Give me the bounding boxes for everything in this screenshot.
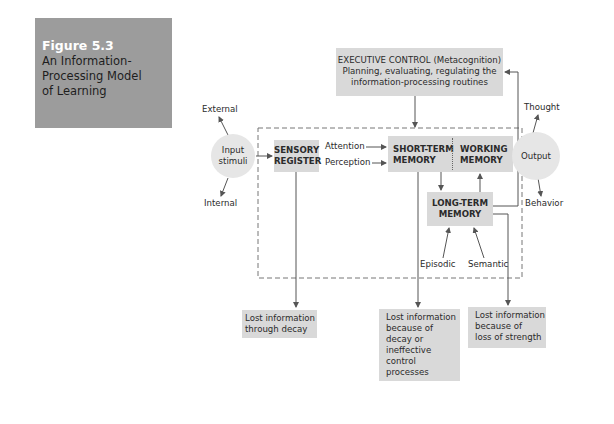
sensory-register-box: SENSORY REGISTER <box>274 140 319 172</box>
wm-label: MEMORY <box>460 155 508 166</box>
short-term-working-memory-box: SHORT-TERM MEMORY WORKING MEMORY <box>388 136 513 172</box>
loss-text: Lost information <box>475 310 546 321</box>
output-node: Output <box>512 132 560 180</box>
semantic-label: Semantic <box>468 259 508 270</box>
loss-text: decay or <box>386 334 460 345</box>
sensory-register-label: SENSORY <box>274 145 319 156</box>
loss-text: control <box>386 356 460 367</box>
output-label: Output <box>521 151 551 162</box>
loss-text: Lost information <box>245 313 317 324</box>
behavior-label: Behavior <box>525 198 563 209</box>
short-term-memory: SHORT-TERM MEMORY <box>393 144 454 166</box>
input-stimuli-node: Input stimuli <box>211 134 255 178</box>
loss-text: Lost information <box>386 312 460 323</box>
diagram-connectors <box>0 0 614 424</box>
episodic-label: Episodic <box>420 259 456 270</box>
loss-box-decay: Lost information through decay <box>242 310 317 338</box>
ltm-label: LONG-TERM <box>427 198 493 209</box>
input-label: Input <box>219 145 248 156</box>
working-memory: WORKING MEMORY <box>460 144 508 166</box>
long-term-memory-box: LONG-TERM MEMORY <box>427 192 493 226</box>
ltm-label: MEMORY <box>427 209 493 220</box>
sensory-register-label: REGISTER <box>274 156 319 167</box>
stm-label: MEMORY <box>393 155 454 166</box>
loss-box-ineffective-control: Lost information because of decay or ine… <box>379 309 460 381</box>
wm-label: WORKING <box>460 144 508 155</box>
external-label: External <box>202 104 238 115</box>
executive-control-desc: information-processing routines <box>336 77 503 88</box>
loss-text: through decay <box>245 324 317 335</box>
loss-text: loss of strength <box>475 332 546 343</box>
loss-text: ineffective <box>386 345 460 356</box>
loss-text: because of <box>475 321 546 332</box>
executive-control-title: EXECUTIVE CONTROL (Metacognition) <box>336 55 503 66</box>
stm-label: SHORT-TERM <box>393 144 454 155</box>
loss-box-strength: Lost information because of loss of stre… <box>468 307 546 348</box>
loss-text: because of <box>386 323 460 334</box>
executive-control-box: EXECUTIVE CONTROL (Metacognition) Planni… <box>336 48 503 96</box>
input-label: stimuli <box>219 156 248 167</box>
perception-label: Perception <box>325 157 370 168</box>
attention-label: Attention <box>325 141 365 152</box>
internal-label: Internal <box>204 198 237 209</box>
memory-divider <box>452 138 453 170</box>
thought-label: Thought <box>524 102 560 113</box>
loss-text: processes <box>386 367 460 378</box>
executive-control-desc: Planning, evaluating, regulating the <box>336 66 503 77</box>
